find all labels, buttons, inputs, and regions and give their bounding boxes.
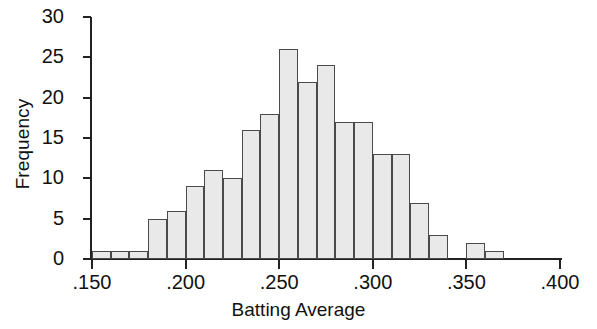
histogram-bar bbox=[204, 170, 223, 259]
histogram-bar bbox=[148, 219, 167, 259]
histogram-bar bbox=[129, 251, 148, 259]
histogram-bar bbox=[186, 186, 205, 259]
histogram-bar bbox=[298, 82, 317, 259]
histogram-bar bbox=[279, 49, 298, 259]
histogram-bar bbox=[167, 211, 186, 259]
histogram-bar bbox=[429, 235, 448, 259]
histogram-bar bbox=[335, 122, 354, 259]
histogram-bar bbox=[317, 65, 336, 259]
histogram-bar bbox=[392, 154, 411, 259]
histogram-bar bbox=[223, 178, 242, 259]
histogram-bar bbox=[373, 154, 392, 259]
histogram-bar bbox=[92, 251, 111, 259]
histogram-bar bbox=[354, 122, 373, 259]
histogram-chart: Frequency 051015202530 .150.200.250.300.… bbox=[0, 0, 597, 329]
histogram-bar bbox=[466, 243, 485, 259]
histogram-bars bbox=[0, 0, 597, 329]
x-axis-title: Batting Average bbox=[0, 299, 597, 321]
histogram-bar bbox=[242, 130, 261, 259]
histogram-bar bbox=[260, 114, 279, 259]
histogram-bar bbox=[485, 251, 504, 259]
histogram-bar bbox=[111, 251, 130, 259]
histogram-bar bbox=[410, 203, 429, 259]
